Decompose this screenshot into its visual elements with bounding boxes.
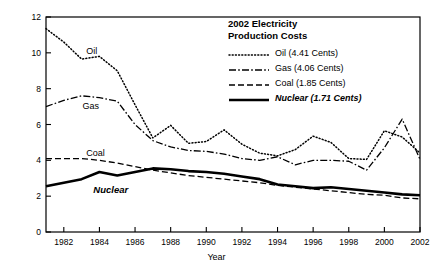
x-tick-label: 1996 <box>298 237 328 247</box>
legend-swatch-dash-dot-icon <box>228 62 270 74</box>
chart-figure: Cents/kWh (2002 Units) Year 024681012198… <box>0 0 433 270</box>
chart-legend: 2002 Electricity Production Costs Oil (4… <box>228 18 418 105</box>
legend-label: Gas (4.06 Cents) <box>275 63 344 73</box>
y-tick-label: 6 <box>23 120 41 130</box>
legend-title: 2002 Electricity Production Costs <box>228 18 418 41</box>
y-tick-label: 8 <box>23 84 41 94</box>
legend-item-gas: Gas (4.06 Cents) <box>228 60 418 75</box>
annotation-nuclear: Nuclear <box>92 184 129 195</box>
legend-label: Oil (4.41 Cents) <box>275 48 338 58</box>
x-tick-label: 1992 <box>227 237 257 247</box>
y-tick-label: 10 <box>23 48 41 58</box>
y-tick-label: 4 <box>23 155 41 165</box>
y-tick-label: 0 <box>23 227 41 237</box>
annotation-oil: Oil <box>85 46 98 56</box>
annotation-gas: Gas <box>82 101 101 111</box>
x-tick-label: 1990 <box>191 237 221 247</box>
x-tick-label: 1982 <box>49 237 79 247</box>
x-tick-label: 1984 <box>84 237 114 247</box>
x-tick-label: 1988 <box>156 237 186 247</box>
legend-label: Coal (1.85 Cents) <box>275 78 346 88</box>
x-tick-label: 2002 <box>405 237 433 247</box>
legend-item-coal: Coal (1.85 Cents) <box>228 75 418 90</box>
legend-label: Nuclear (1.71 Cents) <box>275 93 362 103</box>
x-tick-label: 2000 <box>369 237 399 247</box>
legend-items: Oil (4.41 Cents)Gas (4.06 Cents)Coal (1.… <box>228 45 418 105</box>
legend-swatch-solid-bold-icon <box>228 92 270 104</box>
legend-swatch-dashed-icon <box>228 77 270 89</box>
x-tick-label: 1994 <box>263 237 293 247</box>
y-tick-label: 2 <box>23 191 41 201</box>
annotation-coal: Coal <box>85 148 106 158</box>
y-tick-label: 12 <box>23 12 41 22</box>
legend-swatch-dotted-icon <box>228 47 270 59</box>
legend-item-nuclear: Nuclear (1.71 Cents) <box>228 90 418 105</box>
x-tick-label: 1986 <box>120 237 150 247</box>
x-tick-label: 1998 <box>334 237 364 247</box>
legend-item-oil: Oil (4.41 Cents) <box>228 45 418 60</box>
